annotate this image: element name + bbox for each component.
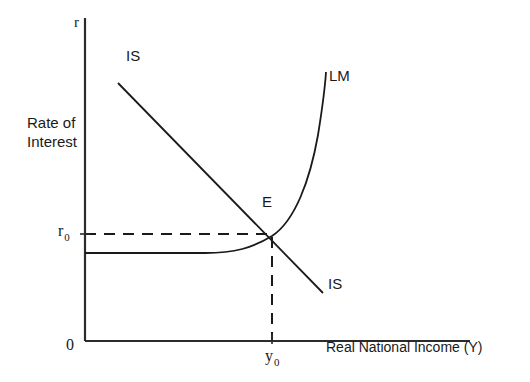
is-curve-label-top: IS — [126, 48, 140, 64]
r0-subscript: 0 — [64, 231, 70, 243]
y-axis-caption-line-2: Interest — [27, 134, 77, 150]
diagram-canvas — [0, 0, 530, 382]
r0-tick-label: r0 — [58, 222, 69, 239]
r0-base: r — [58, 222, 63, 239]
x-axis-caption: Real National Income (Y) — [326, 340, 482, 355]
lm-curve-label: LM — [329, 68, 350, 84]
equilibrium-point-label: E — [262, 194, 272, 210]
is-curve-label-bottom: IS — [328, 276, 342, 292]
origin-label: 0 — [66, 336, 74, 353]
lm-curve — [85, 72, 326, 253]
y-axis-caption-line-1: Rate of — [27, 115, 75, 131]
y-axis-symbol: r — [74, 14, 79, 30]
y0-subscript: 0 — [274, 356, 280, 368]
is-curve — [118, 83, 323, 293]
is-lm-diagram: r 0 Rate of Interest r0 y0 Real National… — [0, 0, 530, 382]
y0-tick-label: y0 — [265, 347, 279, 364]
y0-base: y — [265, 347, 273, 364]
